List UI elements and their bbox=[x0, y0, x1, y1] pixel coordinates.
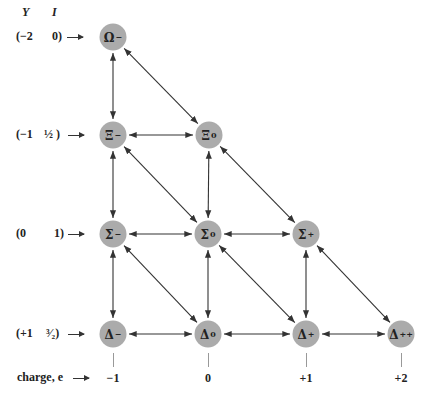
particle-charge: 0 bbox=[211, 129, 217, 139]
node-xi-minus: Ξ− bbox=[100, 122, 127, 149]
particle-charge: 0 bbox=[210, 228, 216, 238]
particle-symbol: Σ bbox=[105, 227, 113, 241]
row-pointer-arrow-icon bbox=[68, 334, 84, 335]
i-axis-header: I bbox=[52, 5, 57, 20]
particle-charge: + bbox=[307, 228, 314, 238]
node-sigma-plus: Σ+ bbox=[293, 221, 320, 248]
double-arrow-icon bbox=[317, 246, 390, 323]
charge-axis-label: charge, e bbox=[17, 370, 63, 385]
charge-value: 0 bbox=[205, 371, 211, 386]
charge-tick bbox=[208, 353, 209, 367]
double-arrow-icon bbox=[219, 245, 295, 322]
particle-charge: − bbox=[114, 228, 121, 238]
charge-tick bbox=[113, 353, 114, 367]
node-delta-minus: Δ− bbox=[100, 321, 127, 348]
row-pointer-arrow-icon bbox=[68, 135, 84, 136]
row-i-value: ½ ) bbox=[44, 127, 60, 142]
particle-charge: 0 bbox=[210, 328, 216, 338]
charge-pointer-arrow-icon bbox=[73, 378, 89, 379]
particle-symbol: Ξ bbox=[105, 128, 113, 142]
row-pointer-arrow-icon bbox=[67, 37, 83, 38]
double-arrow-icon bbox=[124, 48, 198, 123]
node-sigma-minus: Σ− bbox=[100, 221, 127, 248]
particle-symbol: Ω bbox=[104, 30, 115, 44]
row-y-value: (0 bbox=[16, 226, 26, 241]
double-arrow-icon bbox=[124, 147, 197, 223]
charge-value: +2 bbox=[395, 371, 408, 386]
double-arrow-icon bbox=[208, 151, 209, 218]
row-y-value: (−1 bbox=[16, 127, 33, 142]
row-i-value: 0) bbox=[52, 29, 62, 44]
node-delta-plusplus: Δ++ bbox=[388, 321, 415, 348]
charge-value: +1 bbox=[300, 371, 313, 386]
double-arrow-icon bbox=[220, 146, 295, 222]
charge-axis-text: charge, e bbox=[17, 370, 63, 384]
charge-tick bbox=[401, 353, 402, 367]
row-i-value: ³⁄₂) bbox=[46, 326, 59, 341]
y-axis-header: Y bbox=[22, 5, 29, 20]
charge-value: −1 bbox=[107, 371, 120, 386]
particle-symbol: Δ bbox=[104, 327, 113, 341]
row-i-value: 1) bbox=[54, 226, 64, 241]
particle-symbol: Ξ bbox=[201, 128, 209, 142]
particle-symbol: Δ bbox=[200, 327, 209, 341]
particle-charge: − bbox=[115, 31, 122, 41]
particle-symbol: Δ bbox=[297, 327, 306, 341]
node-delta-zero: Δ0 bbox=[195, 321, 222, 348]
row-y-value: (−2 bbox=[16, 29, 33, 44]
particle-symbol: Δ bbox=[389, 327, 398, 341]
row-y-value: (+1 bbox=[16, 326, 33, 341]
particle-charge: − bbox=[114, 129, 121, 139]
particle-charge: − bbox=[115, 328, 122, 338]
node-omega-minus: Ω− bbox=[100, 24, 127, 51]
particle-charge: ++ bbox=[399, 328, 412, 338]
node-xi-zero: Ξ0 bbox=[196, 122, 223, 149]
transition-arrows bbox=[113, 48, 390, 334]
particle-symbol: Σ bbox=[298, 227, 306, 241]
double-arrow-icon bbox=[124, 246, 197, 323]
particle-charge: + bbox=[308, 328, 315, 338]
row-pointer-arrow-icon bbox=[68, 234, 84, 235]
node-sigma-zero: Σ0 bbox=[195, 221, 222, 248]
node-delta-plus: Δ+ bbox=[293, 321, 320, 348]
charge-tick bbox=[306, 353, 307, 367]
particle-symbol: Σ bbox=[200, 227, 208, 241]
